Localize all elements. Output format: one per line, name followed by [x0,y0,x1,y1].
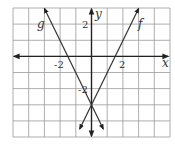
x-axis-label: x [162,56,169,70]
y-tick-label-2: 2 [82,19,88,30]
function-label-g: g [37,17,45,31]
line-f [80,9,139,130]
y-tick-label-neg2: -2 [78,84,88,95]
x-tick-label-2: 2 [119,59,125,70]
y-axis-label: y [94,7,102,21]
x-tick-label-neg2: -2 [54,59,64,70]
coordinate-plane: x y -2 2 2 -2 f g [0,0,175,148]
